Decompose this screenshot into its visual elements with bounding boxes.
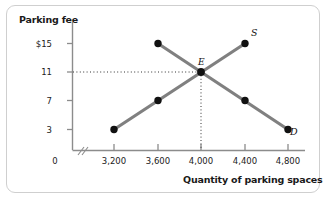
x-tick-label-4800: 4,800 xyxy=(267,156,309,166)
supply-demand-chart: Parking fee Quantity of parking spaces $… xyxy=(0,0,330,208)
y-tick-label-3: 3 xyxy=(22,125,52,135)
x-axis-title: Quantity of parking spaces xyxy=(183,174,323,185)
y-axis-title: Parking fee xyxy=(19,14,78,25)
y-tick-label-15: $15 xyxy=(22,39,52,49)
demand-point-3600 xyxy=(154,40,161,47)
supply-point-3600 xyxy=(154,97,161,104)
equilibrium-label: E xyxy=(198,57,205,67)
y-tick-label-7: 7 xyxy=(22,96,52,106)
supply-point-4400 xyxy=(241,40,248,47)
x-tick-label-3200: 3,200 xyxy=(93,156,135,166)
x-tick-label-3600: 3,600 xyxy=(137,156,179,166)
equilibrium-point xyxy=(197,68,205,76)
demand-point-4400 xyxy=(241,97,248,104)
demand-curve-label: D xyxy=(290,126,298,137)
origin-label: 0 xyxy=(34,156,76,166)
x-tick-label-4000: 4,000 xyxy=(180,156,222,166)
y-tick-label-11: 11 xyxy=(22,67,52,77)
x-tick-label-4400: 4,400 xyxy=(224,156,266,166)
supply-curve-label: S xyxy=(251,27,258,38)
supply-point-3200 xyxy=(110,126,117,133)
